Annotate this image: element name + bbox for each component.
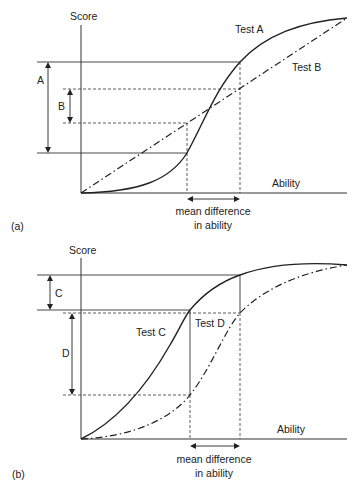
arrow-down-icon bbox=[69, 389, 75, 395]
arrow-up-icon bbox=[47, 275, 53, 281]
arrow-left-icon bbox=[190, 443, 196, 449]
interval-b-label: B bbox=[58, 100, 65, 112]
arrow-down-icon bbox=[47, 304, 53, 310]
arrow-up-icon bbox=[45, 62, 51, 68]
test-c-label: Test C bbox=[136, 326, 166, 338]
arrow-up-icon bbox=[67, 89, 73, 95]
test-d-curve bbox=[81, 265, 347, 439]
arrow-down-icon bbox=[45, 147, 51, 153]
test-b-curve bbox=[81, 18, 347, 193]
interval-c-label: C bbox=[55, 287, 63, 299]
test-d-label: Test D bbox=[195, 317, 225, 329]
interval-a-label: A bbox=[37, 74, 44, 86]
test-c-curve bbox=[81, 264, 347, 439]
mean-difference-label-a-line1: mean difference bbox=[175, 205, 250, 217]
panel-a: Score Ability Test A Test B A B mean dif… bbox=[11, 10, 347, 232]
x-axis-label-b: Ability bbox=[277, 423, 306, 435]
figure-canvas: Score Ability Test A Test B A B mean dif… bbox=[0, 0, 362, 488]
mean-difference-label-b-line1: mean difference bbox=[176, 453, 251, 465]
test-b-label: Test B bbox=[292, 61, 321, 73]
interval-d-label: D bbox=[62, 347, 70, 359]
x-axis-label-a: Ability bbox=[272, 177, 301, 189]
y-axis-label-b: Score bbox=[69, 244, 97, 256]
arrow-down-icon bbox=[67, 117, 73, 123]
arrow-right-icon bbox=[234, 196, 240, 202]
mean-difference-label-b-line2: in ability bbox=[195, 467, 234, 479]
arrow-right-icon bbox=[234, 443, 240, 449]
test-a-label: Test A bbox=[235, 23, 264, 35]
panel-b: Score Ability Test C Test D C D mean dif… bbox=[12, 244, 347, 480]
y-axis-label-a: Score bbox=[70, 10, 98, 22]
arrow-up-icon bbox=[69, 313, 75, 319]
panel-a-label: (a) bbox=[11, 220, 24, 232]
mean-difference-label-a-line2: in ability bbox=[194, 219, 233, 231]
arrow-left-icon bbox=[187, 196, 193, 202]
panel-b-label: (b) bbox=[12, 468, 25, 480]
